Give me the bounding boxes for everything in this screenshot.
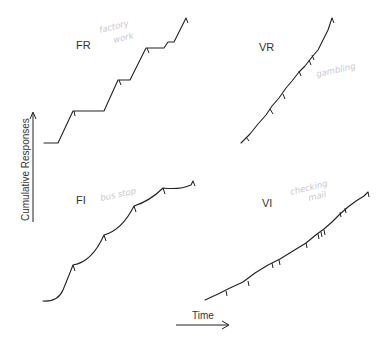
panel-label-vi: VI (262, 197, 272, 209)
panel-label-fi: FI (76, 194, 86, 206)
note-fr-line2: work (112, 30, 135, 45)
note-fi: bus stop (99, 186, 137, 203)
vi-curve (205, 192, 368, 300)
cumulative-records-diagram: Cumulative Responses Time FR factory wor… (0, 0, 385, 349)
panel-vr: VR gambling (241, 18, 357, 143)
y-axis-label: Cumulative Responses (20, 118, 31, 221)
x-axis-label: Time (192, 310, 214, 321)
y-axis: Cumulative Responses (20, 112, 36, 222)
vr-curve (241, 18, 332, 143)
panel-label-vr: VR (259, 41, 274, 53)
note-vr: gambling (315, 61, 357, 79)
x-axis: Time (176, 310, 229, 329)
panel-fi: FI bus stop (43, 181, 195, 301)
panel-fr: FR factory work (44, 18, 188, 143)
panel-label-fr: FR (76, 39, 91, 51)
panel-vi: VI checking mail (205, 178, 369, 300)
